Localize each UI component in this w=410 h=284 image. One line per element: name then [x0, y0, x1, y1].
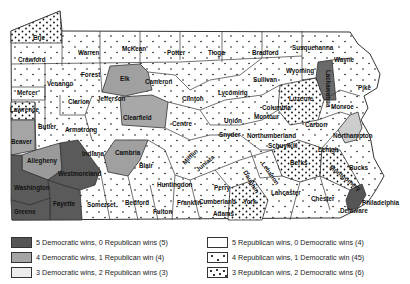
- legend-item-rep4: 4 Republican wins, 1 Democratic win (45): [207, 251, 364, 264]
- legend: 5 Democratic wins, 0 Republican wins (5)…: [0, 236, 410, 284]
- swatch-rep5-icon: [207, 237, 228, 248]
- county-label-elk: Elk: [120, 75, 130, 82]
- county-label-columbia: Columbia: [262, 104, 291, 111]
- county-label-mercer: Mercer: [17, 89, 38, 96]
- county-label-clarion: Clarion: [68, 98, 90, 105]
- legend-label: 3 Republican wins, 2 Democratic wins (6): [232, 268, 364, 277]
- legend-label: 5 Democratic wins, 0 Republican wins (5): [36, 238, 168, 247]
- county-label-forest: Forest: [81, 71, 101, 78]
- county-label-cambria: Cambria: [115, 149, 141, 156]
- county-label-cameron: Cameron: [145, 78, 172, 85]
- county-label-bucks: Bucks: [349, 164, 368, 171]
- county-label-perry: Perry: [214, 184, 231, 192]
- county-label-franklin: Franklin: [177, 199, 202, 206]
- legend-item-rep3: 3 Republican wins, 2 Democratic wins (6): [207, 266, 364, 279]
- county-label-adams: Adams: [213, 210, 234, 217]
- county-label-montour: Montour: [254, 113, 280, 120]
- county-label-philadelphia: Philadelphia: [362, 199, 400, 207]
- county-label-monroe: Monroe: [331, 103, 354, 110]
- county-label-potter: Potter: [167, 49, 186, 56]
- county-label-bedford: Bedford: [125, 199, 149, 206]
- county-label-cumberland: Cumberland: [199, 198, 236, 205]
- county-label-centre: Centre: [172, 120, 192, 127]
- legend-label: 5 Republican wins, 0 Democratic wins (4): [232, 238, 364, 247]
- county-label-pike: Pike: [358, 84, 371, 91]
- county-label-clearfield: Clearfield: [123, 114, 152, 121]
- legend-item-dem5: 5 Democratic wins, 0 Republican wins (5): [11, 236, 168, 249]
- county-label-chester: Chester: [311, 195, 335, 202]
- county-label-lancaster: Lancaster: [271, 189, 301, 196]
- county-label-huntingdon: Huntingdon: [157, 181, 192, 189]
- county-label-wyoming: Wyoming: [286, 67, 314, 75]
- county-label-crawford: Crawford: [18, 56, 46, 63]
- legend-label: 4 Republican wins, 1 Democratic win (45): [232, 253, 364, 262]
- legend-item-dem3: 3 Democratic wins, 2 Republican wins (3): [11, 266, 168, 279]
- county-label-lehigh: Lehigh: [318, 146, 339, 154]
- county-label-westmoreland: Westmoreland: [58, 170, 101, 177]
- county-label-lycoming: Lycoming: [218, 89, 248, 97]
- county-label-carbon: Carbon: [305, 121, 327, 128]
- legend-label: 3 Democratic wins, 2 Republican wins (3): [36, 268, 168, 277]
- county-label-beaver: Beaver: [11, 138, 33, 145]
- county-label-bradford: Bradford: [252, 49, 279, 56]
- county-clearfield: [120, 95, 168, 128]
- swatch-dem4-icon: [11, 252, 32, 263]
- county-label-mckean: McKean: [122, 45, 146, 52]
- county-label-erie: Erie: [33, 34, 45, 41]
- swatch-dem5-icon: [11, 237, 32, 248]
- county-label-warren: Warren: [78, 49, 100, 56]
- county-label-union: Union: [224, 117, 242, 124]
- county-label-susquehanna: Susquehanna: [292, 44, 334, 52]
- county-label-allegheny: Allegheny: [27, 157, 58, 165]
- county-label-armstrong: Armstrong: [65, 126, 97, 134]
- county-label-luzerne: Luzerne: [289, 95, 314, 102]
- county-label-greene: Greene: [14, 208, 36, 215]
- legend-item-rep5: 5 Republican wins, 0 Democratic wins (4): [207, 236, 364, 249]
- county-label-somerset: Somerset: [87, 201, 117, 208]
- county-label-venango: Venango: [47, 80, 73, 88]
- legend-item-dem4: 4 Democratic wins, 1 Republican win (4): [11, 251, 164, 264]
- county-label-butler: Butler: [38, 123, 57, 130]
- county-label-fulton: Fulton: [153, 208, 172, 215]
- swatch-rep4-icon: [207, 252, 228, 263]
- county-label-clinton: Clinton: [182, 95, 204, 102]
- county-label-snyder: Snyder: [219, 131, 241, 139]
- county-label-wayne: Wayne: [334, 56, 355, 64]
- county-label-washington: Washington: [14, 184, 50, 192]
- swatch-rep3-icon: [207, 267, 228, 278]
- pennsylvania-county-map: ErieWarrenMcKeanPotterTiogaBradfordSusqu…: [0, 0, 410, 234]
- county-label-blair: Blair: [139, 162, 154, 169]
- county-label-northampton: Northampton: [333, 132, 373, 140]
- county-label-lawrence: Lawrence: [10, 106, 40, 113]
- county-label-fayette: Fayette: [53, 200, 76, 208]
- county-label-sullivan: Sullivan: [253, 76, 277, 83]
- county-label-indiana: Indiana: [82, 150, 105, 157]
- county-label-delaware: Delaware: [340, 207, 368, 214]
- county-label-tioga: Tioga: [208, 49, 225, 57]
- legend-label: 4 Democratic wins, 1 Republican win (4): [36, 253, 164, 262]
- swatch-dem3-icon: [11, 267, 32, 278]
- county-label-schuylkill: Schuylkill: [268, 142, 298, 150]
- county-label-jefferson: Jefferson: [97, 95, 125, 102]
- county-label-northumberland: Northumberland: [247, 132, 296, 139]
- county-label-york: York: [243, 198, 257, 205]
- county-label-berks: Berks: [290, 159, 308, 166]
